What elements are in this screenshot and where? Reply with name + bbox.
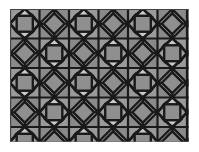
pattern-canvas <box>0 0 199 152</box>
tiling-figure: Snub square geometric tiling pattern <box>0 0 199 152</box>
